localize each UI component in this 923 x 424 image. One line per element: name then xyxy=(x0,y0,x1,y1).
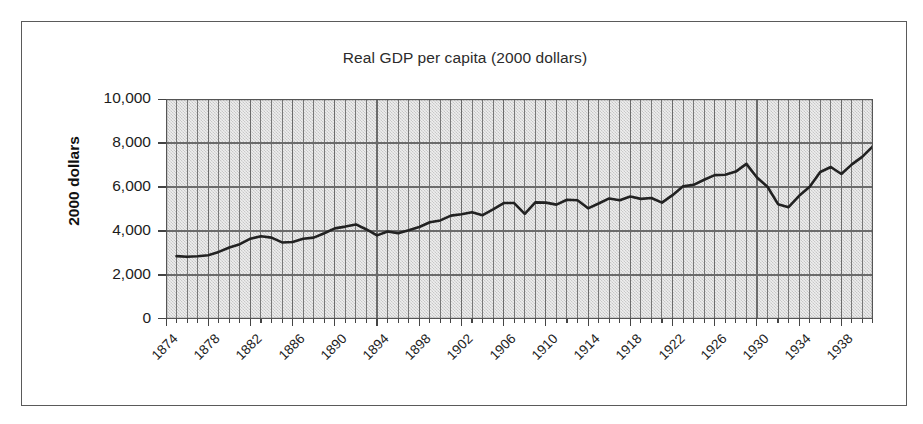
y-axis-ticks xyxy=(158,99,166,319)
x-tick-label: 1902 xyxy=(441,331,476,366)
x-tick-label: 1926 xyxy=(695,331,730,366)
y-tick-label: 2,000 xyxy=(41,265,151,283)
x-tick-label: 1886 xyxy=(273,331,308,366)
y-tick-label: 4,000 xyxy=(41,221,151,239)
x-tick-label: 1910 xyxy=(526,331,561,366)
x-tick-label: 1938 xyxy=(821,331,856,366)
x-tick-label: 1874 xyxy=(146,331,181,366)
y-tick-label: 10,000 xyxy=(41,89,151,107)
x-axis-ticks xyxy=(166,319,873,329)
x-tick-label: 1914 xyxy=(568,331,603,366)
x-tick-label: 1906 xyxy=(484,331,519,366)
y-tick-label: 8,000 xyxy=(41,133,151,151)
x-tick-label: 1918 xyxy=(610,331,645,366)
x-tick-label: 1898 xyxy=(399,331,434,366)
y-tick-label: 0 xyxy=(41,309,151,327)
x-tick-label: 1878 xyxy=(188,331,223,366)
plot-svg xyxy=(166,99,873,319)
x-tick-label: 1934 xyxy=(779,331,814,366)
x-tick-label: 1882 xyxy=(230,331,265,366)
x-tick-label: 1930 xyxy=(737,331,772,366)
x-tick-label: 1922 xyxy=(652,331,687,366)
y-tick-label: 6,000 xyxy=(41,177,151,195)
plot-area xyxy=(166,99,873,319)
x-tick-label: 1890 xyxy=(315,331,350,366)
chart-figure: Real GDP per capita (2000 dollars) 2000 … xyxy=(0,0,923,424)
x-tick-label: 1894 xyxy=(357,331,392,366)
chart-frame: Real GDP per capita (2000 dollars) 2000 … xyxy=(21,21,907,406)
chart-title: Real GDP per capita (2000 dollars) xyxy=(22,49,908,67)
